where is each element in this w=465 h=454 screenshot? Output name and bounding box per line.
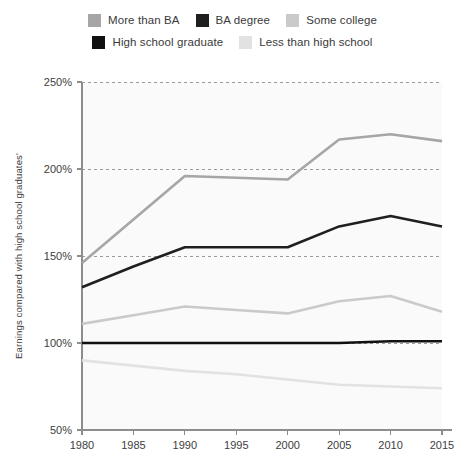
y-tickmarks-group [77,82,82,430]
legend-label-some-college: Some college [306,14,377,26]
legend-label-less-than-high-school: Less than high school [259,36,372,48]
x-tick-label-1995: 1995 [224,439,248,451]
y-tick-label-50: 50% [50,424,72,436]
legend-label-ba-degree: BA degree [216,14,271,26]
legend-row-1: More than BA BA degree Some college [0,9,465,31]
legend-label-more-than-ba: More than BA [108,14,180,26]
legend-item-some-college: Some college [286,14,377,27]
legend-swatch-ba-degree [196,14,209,27]
chart-container: More than BA BA degree Some college High… [0,0,465,454]
legend-swatch-high-school-graduate [92,36,105,49]
x-tick-label-2000: 2000 [275,439,299,451]
plot-area: 50%100%150%200%250% 19801985199019952000… [0,62,465,454]
chart-legend: More than BA BA degree Some college High… [0,0,465,53]
legend-item-ba-degree: BA degree [196,14,271,27]
legend-swatch-some-college [286,14,299,27]
legend-item-high-school-graduate: High school graduate [92,36,223,49]
y-tick-label-150: 150% [44,250,72,262]
legend-label-high-school-graduate: High school graduate [112,36,223,48]
x-tick-label-1980: 1980 [70,439,94,451]
y-axis-title: Earnings compared with high school gradu… [13,153,24,359]
legend-swatch-less-than-high-school [239,36,252,49]
x-tick-labels-group: 19801985199019952000200520102015 [70,439,454,451]
y-tick-label-100: 100% [44,337,72,349]
y-tick-label-250: 250% [44,76,72,88]
x-tick-label-1990: 1990 [173,439,197,451]
legend-row-2: High school graduate Less than high scho… [0,31,465,53]
legend-item-less-than-high-school: Less than high school [239,36,372,49]
y-tick-labels-group: 50%100%150%200%250% [44,76,72,436]
x-tick-label-1985: 1985 [121,439,145,451]
x-tick-label-2010: 2010 [378,439,402,451]
x-tick-label-2015: 2015 [430,439,454,451]
y-tick-label-200: 200% [44,163,72,175]
legend-item-more-than-ba: More than BA [88,14,180,27]
x-tick-label-2005: 2005 [327,439,351,451]
plot-svg: 50%100%150%200%250% 19801985199019952000… [0,62,465,454]
legend-swatch-more-than-ba [88,14,101,27]
